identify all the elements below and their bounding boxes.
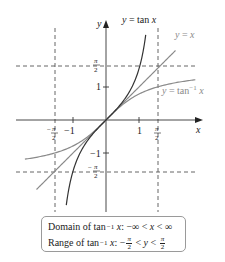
y-tick-labels: π 2 1 −1 − π 2 <box>88 57 101 180</box>
x-axis-arrow-icon <box>195 117 203 123</box>
y-tick-1: 1 <box>96 81 101 92</box>
svg-text:2: 2 <box>155 134 159 142</box>
x-tick-1: 1 <box>137 125 142 136</box>
svg-text:π: π <box>94 57 98 65</box>
svg-text:π: π <box>155 125 159 133</box>
range-line: Range of tan−1 x: −π2 < y < π2 <box>48 235 185 251</box>
svg-text:−: − <box>88 164 92 172</box>
domain-line: Domain of tan−1 x: −∞ < x < ∞ <box>48 219 185 235</box>
svg-text:π: π <box>52 125 56 133</box>
y-tick-neg1: −1 <box>90 148 101 159</box>
x-axis-label: x <box>195 124 201 135</box>
pi-over-2: π2 <box>160 236 166 251</box>
svg-text:2: 2 <box>94 172 98 180</box>
x-tick-neg1: −1 <box>64 125 75 136</box>
svg-text:2: 2 <box>52 134 56 142</box>
svg-text:−: − <box>47 126 51 134</box>
tan-curve-label: y = tan x <box>121 14 157 25</box>
domain-range-box: Domain of tan−1 x: −∞ < x < ∞ Range of t… <box>41 216 186 252</box>
neg-pi-over-2: π2 <box>126 236 132 251</box>
y-axis-arrow-icon <box>103 20 109 28</box>
arctan-curve-label: y = tan−1 x <box>161 84 204 96</box>
identity-curve-label: y = x <box>174 29 195 40</box>
x-tick-labels: − π 2 −1 1 π 2 <box>47 125 161 142</box>
svg-text:π: π <box>94 163 98 171</box>
y-axis-label: y <box>96 18 102 29</box>
svg-text:2: 2 <box>94 66 98 74</box>
